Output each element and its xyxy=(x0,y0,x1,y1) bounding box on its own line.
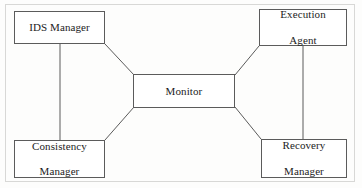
node-monitor: Monitor xyxy=(133,74,235,108)
node-monitor-label-line1: Monitor xyxy=(163,85,206,98)
edge-ids-manager-to-monitor xyxy=(105,44,134,75)
node-ids-manager: IDS Manager xyxy=(14,11,105,44)
block-diagram-figure: IDS Manager Execution Agent Monitor Cons… xyxy=(0,0,362,188)
edge-monitor-to-recovery-manager xyxy=(235,107,261,139)
node-consistency-manager: Consistency Manager xyxy=(14,140,105,178)
node-execution-agent: Execution Agent xyxy=(259,9,347,46)
node-recovery-manager-label-line1: Recovery xyxy=(280,139,329,152)
node-execution-agent-label-line1: Execution xyxy=(277,8,329,21)
node-consistency-manager-label-line2: Manager xyxy=(29,165,90,178)
edge-monitor-to-consistency-manager xyxy=(105,107,134,140)
node-recovery-manager-label-line2: Manager xyxy=(280,165,329,178)
node-consistency-manager-label-line1: Consistency xyxy=(29,140,90,153)
node-execution-agent-label-line2: Agent xyxy=(277,34,329,47)
node-recovery-manager: Recovery Manager xyxy=(261,139,347,178)
node-ids-manager-label-line1: IDS Manager xyxy=(26,21,93,34)
edge-monitor-to-execution-agent xyxy=(235,46,259,75)
